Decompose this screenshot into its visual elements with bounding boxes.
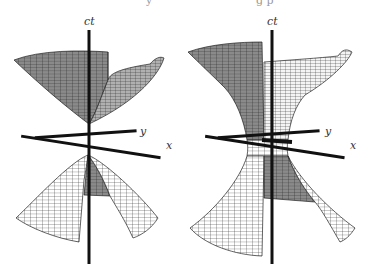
lower-sheet-right-surface <box>88 155 158 238</box>
left-panel-two-sheeted-hyperboloid: ct y x <box>14 15 173 264</box>
y-axis-label: y <box>324 125 332 138</box>
upper-flare-left-surface <box>188 42 264 140</box>
lower-flare-left-surface <box>190 156 264 256</box>
upper-sheet-outer-surface <box>14 51 108 124</box>
x-axis-label: x <box>350 139 357 152</box>
figure-canvas: ct y x ct y x <box>0 0 376 276</box>
upper-flare-right-surface <box>264 50 352 140</box>
ct-axis-label: ct <box>84 15 95 28</box>
x-axis-label: x <box>166 139 173 152</box>
lower-sheet-left-surface <box>16 155 88 242</box>
throat-axis-segment <box>262 140 292 142</box>
right-panel-one-sheeted-hyperboloid: ct y x <box>188 15 357 264</box>
y-axis <box>35 131 137 138</box>
y-axis-label: y <box>139 125 147 138</box>
ct-axis-label: ct <box>267 15 278 28</box>
